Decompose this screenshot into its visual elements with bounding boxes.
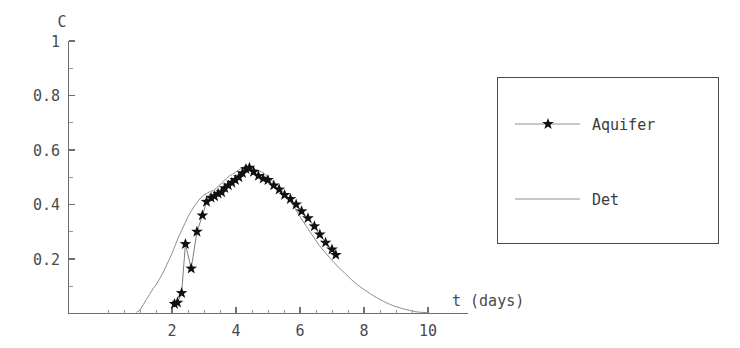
legend-box bbox=[498, 78, 719, 244]
y-tick-label: 0.2 bbox=[33, 251, 60, 269]
data-series-layer bbox=[137, 162, 428, 313]
x-axis-label: t (days) bbox=[452, 292, 524, 310]
x-tick-label: 4 bbox=[231, 322, 240, 340]
y-axis-label: C bbox=[57, 13, 66, 31]
series-markers-aquifer bbox=[169, 162, 342, 309]
y-tick-label: 1 bbox=[51, 33, 60, 51]
legend-label-aquifer: Aquifer bbox=[592, 116, 655, 134]
x-tick-label: 8 bbox=[359, 322, 368, 340]
plot-figure: 0.20.40.60.81 246810 C t (days) Aquifer … bbox=[0, 0, 740, 348]
y-axis-ticks bbox=[69, 41, 76, 286]
x-tick-label: 10 bbox=[419, 322, 437, 340]
plot-canvas: 0.20.40.60.81 246810 C t (days) Aquifer … bbox=[0, 0, 740, 348]
y-tick-label: 0.8 bbox=[33, 87, 60, 105]
data-point-marker bbox=[320, 237, 332, 248]
data-point-marker bbox=[191, 226, 203, 237]
data-point-marker bbox=[197, 209, 209, 220]
legend-label-det: Det bbox=[592, 191, 619, 209]
y-tick-label: 0.4 bbox=[33, 196, 60, 214]
legend: Aquifer Det bbox=[498, 78, 719, 244]
series-line-aquifer bbox=[175, 168, 336, 304]
y-axis-tick-labels: 0.20.40.60.81 bbox=[33, 33, 60, 269]
y-tick-label: 0.6 bbox=[33, 142, 60, 160]
data-point-marker bbox=[185, 263, 197, 274]
x-tick-label: 2 bbox=[167, 322, 176, 340]
x-axis-ticks bbox=[108, 307, 428, 314]
data-point-marker bbox=[314, 229, 326, 240]
x-tick-label: 6 bbox=[295, 322, 304, 340]
x-axis-tick-labels: 246810 bbox=[167, 322, 437, 340]
data-point-marker bbox=[176, 287, 188, 298]
